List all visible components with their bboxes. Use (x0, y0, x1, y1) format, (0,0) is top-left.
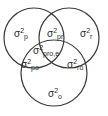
subscript: pro,e (43, 50, 59, 57)
label-region-r: σ2r (80, 27, 92, 40)
subscript: o (58, 93, 62, 100)
label-region-ro: σ2ro (67, 58, 83, 71)
label-region-po: σ2po (21, 58, 39, 71)
subscript: po (31, 64, 39, 71)
label-region-pr: σ2pr (47, 27, 63, 40)
label-region-p: σ2p (14, 27, 28, 40)
subscript: p (24, 33, 28, 40)
label-region-pro: σ2pro,e (33, 44, 59, 57)
subscript: ro (77, 64, 83, 71)
label-region-o: σ2o (48, 87, 62, 100)
subscript: r (90, 33, 92, 40)
subscript: pr (57, 33, 63, 40)
